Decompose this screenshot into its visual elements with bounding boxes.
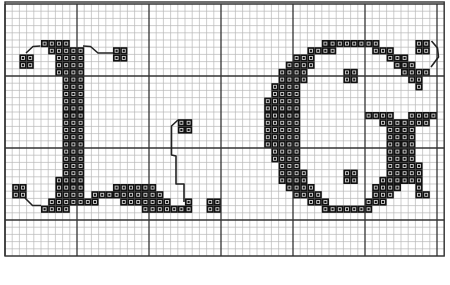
stitch-cell <box>415 162 422 169</box>
stitch-cell <box>394 119 401 126</box>
stitch-cell <box>77 90 84 97</box>
stitch-cell <box>19 62 26 69</box>
stitch-cell <box>387 47 394 54</box>
stitch-cell <box>336 40 343 47</box>
stitch-cell <box>120 191 127 198</box>
stitch-cell <box>120 47 127 54</box>
stitch-cell <box>142 206 149 213</box>
stitch-cell <box>149 184 156 191</box>
stitch-cell <box>279 148 286 155</box>
stitch-cell <box>343 40 350 47</box>
stitch-cell <box>387 155 394 162</box>
stitch-cell <box>55 47 62 54</box>
stitch-cell <box>70 198 77 205</box>
stitch-cell <box>77 155 84 162</box>
stitch-cell <box>286 126 293 133</box>
stitch-cell <box>343 177 350 184</box>
stitch-cell <box>142 198 149 205</box>
stitch-cell <box>77 170 84 177</box>
stitch-cell <box>77 54 84 61</box>
stitch-cell <box>401 54 408 61</box>
stitch-cell <box>336 206 343 213</box>
stitch-cell <box>408 69 415 76</box>
stitch-cell <box>279 162 286 169</box>
stitch-cell <box>415 69 422 76</box>
stitch-cell <box>63 155 70 162</box>
stitch-cell <box>286 162 293 169</box>
stitch-cell <box>387 191 394 198</box>
stitch-cell <box>379 191 386 198</box>
stitch-cell <box>70 184 77 191</box>
stitch-cell <box>315 47 322 54</box>
stitch-cell <box>293 148 300 155</box>
stitch-cell <box>365 40 372 47</box>
stitch-cell <box>19 184 26 191</box>
stitch-cell <box>264 105 271 112</box>
stitch-cell <box>293 177 300 184</box>
stitch-cell <box>307 191 314 198</box>
stitch-cell <box>423 47 430 54</box>
stitch-cell <box>430 112 437 119</box>
stitch-cell <box>394 148 401 155</box>
stitch-cell <box>293 62 300 69</box>
stitch-cell <box>77 62 84 69</box>
stitch-cell <box>171 206 178 213</box>
stitch-cell <box>279 119 286 126</box>
stitch-cell <box>156 198 163 205</box>
stitch-cell <box>401 162 408 169</box>
stitch-cell <box>77 47 84 54</box>
stitch-cell <box>27 54 34 61</box>
stitch-cell <box>351 40 358 47</box>
stitch-cell <box>315 198 322 205</box>
stitch-cell <box>379 47 386 54</box>
stitch-cell <box>63 54 70 61</box>
stitch-cell <box>365 206 372 213</box>
stitch-cell <box>70 141 77 148</box>
stitch-cell <box>286 62 293 69</box>
stitch-cell <box>70 47 77 54</box>
stitch-cell <box>408 148 415 155</box>
stitch-cell <box>322 206 329 213</box>
stitch-cell <box>293 191 300 198</box>
stitch-cell <box>307 62 314 69</box>
stitch-cell <box>387 184 394 191</box>
stitch-cell <box>286 90 293 97</box>
stitch-cell <box>271 134 278 141</box>
stitch-cell <box>351 76 358 83</box>
stitch-cell <box>279 170 286 177</box>
stitch-cell <box>408 76 415 83</box>
stitch-cell <box>163 198 170 205</box>
stitch-cell <box>127 198 134 205</box>
stitch-cell <box>63 198 70 205</box>
stitch-cell <box>271 148 278 155</box>
stitch-cell <box>286 155 293 162</box>
stitch-cell <box>63 112 70 119</box>
stitch-cell <box>293 126 300 133</box>
stitch-cell <box>70 76 77 83</box>
stitch-cell <box>322 40 329 47</box>
stitch-cell <box>415 47 422 54</box>
stitch-cell <box>156 206 163 213</box>
stitch-cell <box>415 40 422 47</box>
stitch-cell <box>149 198 156 205</box>
stitch-cell <box>279 83 286 90</box>
stitch-cell <box>271 126 278 133</box>
stitch-cell <box>300 170 307 177</box>
stitch-cell <box>113 54 120 61</box>
stitch-cell <box>286 98 293 105</box>
stitch-cell <box>77 105 84 112</box>
stitch-cell <box>408 119 415 126</box>
stitch-cell <box>77 162 84 169</box>
stitch-cell <box>279 76 286 83</box>
stitch-cell <box>63 40 70 47</box>
stitch-cell <box>55 198 62 205</box>
stitch-cell <box>70 148 77 155</box>
stitch-cell <box>214 198 221 205</box>
stitch-cell <box>264 112 271 119</box>
stitch-cell <box>127 184 134 191</box>
stitch-cell <box>423 40 430 47</box>
stitch-cell <box>55 177 62 184</box>
stitch-cell <box>41 40 48 47</box>
stitch-cell <box>214 206 221 213</box>
stitch-cell <box>329 40 336 47</box>
